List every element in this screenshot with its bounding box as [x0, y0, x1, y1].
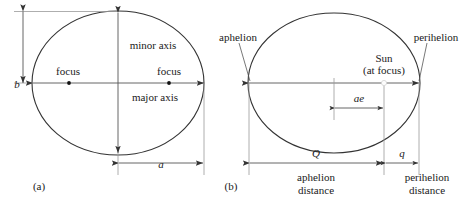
label-minor-axis: minor axis	[130, 39, 177, 51]
label-aphelion-distance-line2: distance	[298, 184, 334, 196]
label-semi-major-a: a	[158, 158, 164, 170]
label-aphelion-distance-line1: aphelion	[297, 171, 335, 183]
label-major-axis: major axis	[132, 91, 178, 103]
sun-focus-point	[381, 80, 386, 85]
leader-line-perihelion	[419, 43, 427, 81]
label-aphelion: aphelion	[219, 31, 257, 43]
label-focus-right: focus	[157, 65, 181, 77]
label-Q: Q	[312, 147, 320, 159]
ellipse-orbit-figure: b a minor axis major axis focus focus (a…	[0, 0, 466, 206]
caption-panel-b: (b)	[225, 180, 238, 192]
label-sun-at-focus: (at focus)	[363, 64, 405, 76]
label-focus-left: focus	[56, 65, 80, 77]
focus-point-right	[167, 81, 171, 85]
label-sun: Sun	[375, 52, 392, 64]
leader-line-aphelion	[239, 43, 250, 81]
label-perihelion: perihelion	[414, 31, 459, 43]
label-q: q	[399, 147, 405, 159]
label-ae: ae	[354, 92, 364, 104]
caption-panel-a: (a)	[33, 180, 45, 192]
focus-point-left	[67, 81, 71, 85]
label-semi-minor-b: b	[14, 78, 20, 90]
label-perihelion-distance-line2: distance	[409, 184, 445, 196]
label-perihelion-distance-line1: perihelion	[405, 171, 450, 183]
